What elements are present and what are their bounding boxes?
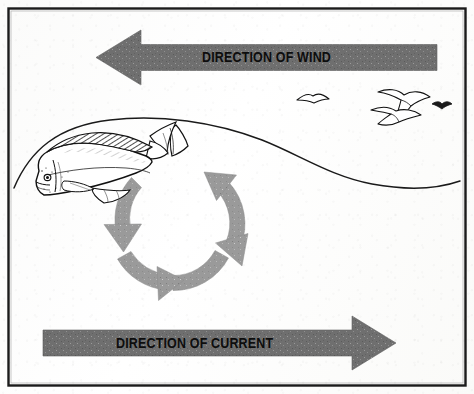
seabird-flock xyxy=(297,90,452,125)
seabird-distant-right xyxy=(432,102,452,109)
wind-direction-label: DIRECTION OF WIND xyxy=(202,47,331,67)
figure-canvas: DIRECTION OF WIND DIRECTION OF CURRENT xyxy=(0,0,474,394)
dolphinfish-mahi-mahi xyxy=(36,122,188,203)
seabird-small-left xyxy=(297,94,329,103)
seabird-large-lower-right xyxy=(371,107,421,125)
current-direction-label: DIRECTION OF CURRENT xyxy=(116,333,273,353)
